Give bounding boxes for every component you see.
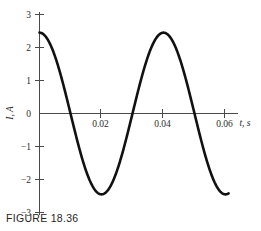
x-axis-label: t, s	[239, 118, 250, 128]
y-tick-label-0: 0	[26, 109, 31, 119]
x-tick-label-0.06: 0.06	[216, 119, 233, 129]
figure-container: 3 2 1 0 −1 −2 −3 0.02 0.04 0.06 t, s I, …	[0, 0, 261, 231]
y-tick-label-minus-1: −1	[21, 142, 31, 152]
x-axis-tick-labels: 0.02 0.04 0.06	[92, 119, 233, 129]
y-tick-label-minus-2: −2	[21, 175, 31, 185]
y-tick-label-2: 2	[26, 43, 31, 53]
y-axis-tick-labels: 3 2 1 0 −1 −2 −3	[21, 10, 31, 218]
current-vs-time-plot: 3 2 1 0 −1 −2 −3 0.02 0.04 0.06 t, s I, …	[0, 0, 261, 231]
y-axis-label: I, A	[5, 106, 15, 121]
x-tick-label-0.04: 0.04	[154, 119, 171, 129]
y-tick-label-1: 1	[26, 76, 31, 86]
y-tick-label-3: 3	[26, 10, 31, 20]
figure-caption: FIGURE 18.36	[6, 212, 78, 224]
x-tick-label-0.02: 0.02	[92, 119, 109, 129]
